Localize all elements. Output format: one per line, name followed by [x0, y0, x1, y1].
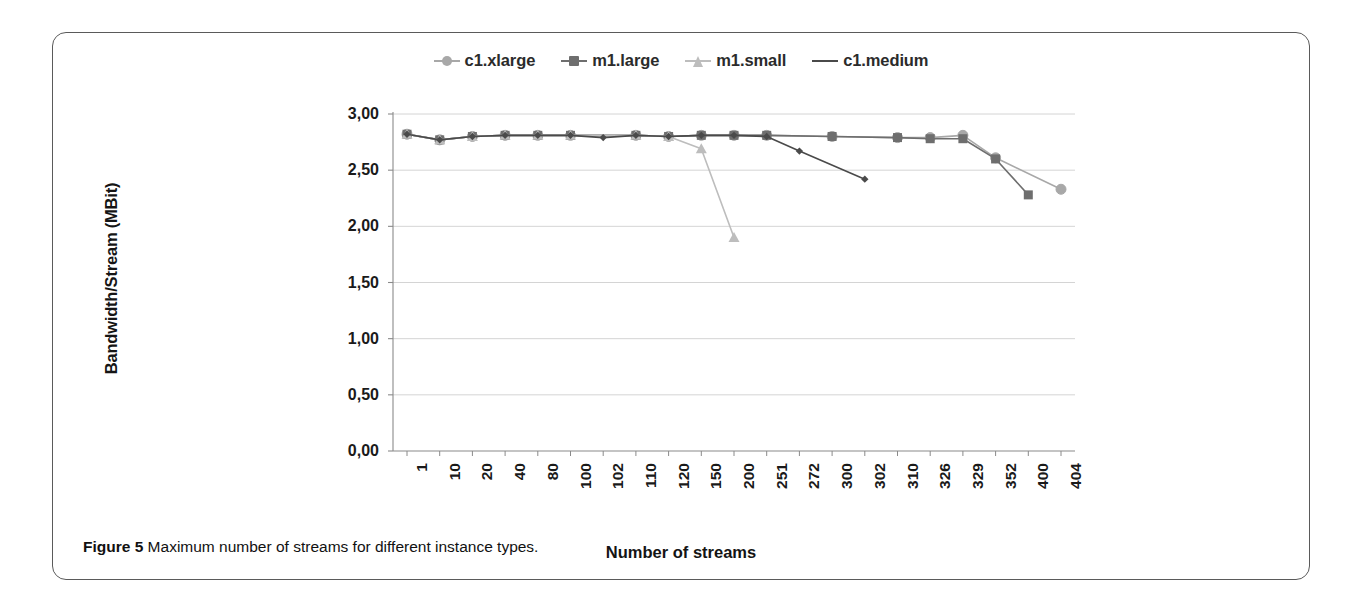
chart-svg — [53, 33, 1311, 581]
chart-plot-area: Bandwidth/Stream (MBit) 3,002,502,001,50… — [53, 33, 1309, 579]
caption-label: Figure 5 — [83, 538, 143, 555]
figure-page: c1.xlargem1.largem1.smallc1.medium Bandw… — [0, 0, 1361, 614]
figure-container: c1.xlargem1.largem1.smallc1.medium Bandw… — [52, 32, 1310, 580]
caption-text: Maximum number of streams for different … — [148, 538, 539, 555]
figure-caption: Figure 5 Maximum number of streams for d… — [83, 537, 1279, 557]
